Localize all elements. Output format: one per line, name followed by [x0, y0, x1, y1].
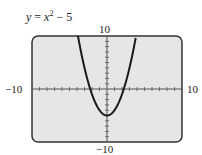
y-min-label: −10: [96, 143, 113, 155]
x-max-label: 10: [187, 83, 198, 95]
x-min-label: −10: [5, 83, 22, 95]
y-max-label: 10: [99, 23, 110, 35]
